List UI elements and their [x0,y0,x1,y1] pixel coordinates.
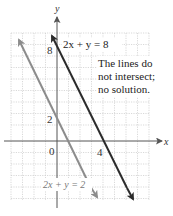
y-tick-label-2: 2 [47,113,53,125]
x-tick-label-4: 4 [97,146,103,158]
annotation-line-1: The lines do [98,57,153,69]
line-2x-plus-y-eq-8-lower [127,188,133,199]
x-axis-label: x [163,136,169,147]
line2-equation-label: 2x + y = 2 [43,179,85,190]
coordinate-graph: y x 0 4 2 8 2x + y = 8 2x + y = 2 The li… [0,0,173,216]
y-tick-label-8: 8 [47,44,53,56]
annotation-line-3: no solution. [98,83,150,95]
y-axis-label: y [54,3,60,14]
line1-equation-label: 2x + y = 8 [63,38,109,50]
origin-label: 0 [49,145,55,157]
annotation-line-2: not intersect; [98,70,155,82]
